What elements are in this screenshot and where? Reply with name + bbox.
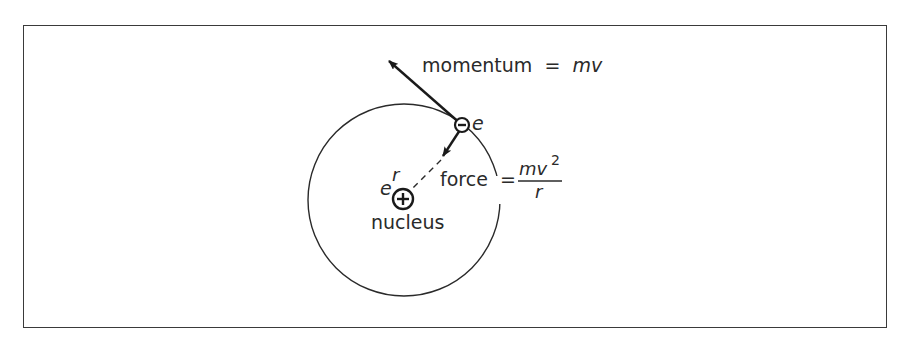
force-numerator: mv (519, 158, 548, 179)
bohr-atom-diagram: momentum = mv e force = mv 2 r r e nucle… (0, 0, 914, 340)
radius-label: r (392, 164, 401, 185)
force-label: force = (440, 168, 516, 190)
momentum-label: momentum = mv (422, 54, 603, 76)
force-arrow (443, 130, 460, 156)
nucleus-icon (393, 189, 413, 209)
nucleus-charge-label: e (380, 177, 392, 199)
nucleus-label: nucleus (371, 211, 444, 233)
radius-line (408, 160, 441, 193)
force-denominator: r (535, 181, 544, 202)
force-numerator-exponent: 2 (551, 152, 560, 168)
electron-charge-label: e (472, 112, 484, 134)
electron-icon (455, 118, 469, 132)
